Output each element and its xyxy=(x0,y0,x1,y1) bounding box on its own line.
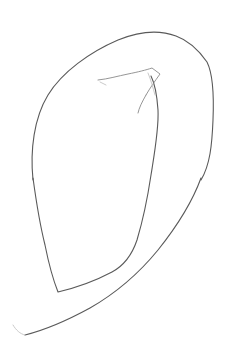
spike-tail-stroke xyxy=(138,95,146,113)
lower-sweep-tail-stroke xyxy=(13,325,25,335)
lower-sweep-stroke xyxy=(25,178,201,335)
outer-loop-stroke xyxy=(32,32,213,180)
spike-start-faint-stroke xyxy=(100,82,106,85)
sketch-canvas xyxy=(0,0,229,357)
